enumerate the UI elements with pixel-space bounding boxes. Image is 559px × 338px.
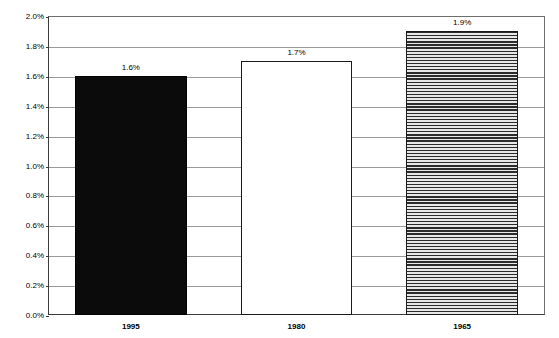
x-axis-label-1995: 1995	[122, 322, 140, 331]
bar-1965[interactable]	[406, 31, 518, 315]
population-growth-bar-chart: Population Growth 0.0%0.2%0.4%0.6%0.8%1.…	[0, 0, 559, 338]
bar-1995[interactable]	[75, 76, 187, 315]
data-label-1980: 1.7%	[287, 48, 305, 57]
y-axis-tick-mark	[46, 316, 49, 317]
y-axis-tick-label: 2.0%	[26, 12, 44, 21]
data-label-1965: 1.9%	[453, 18, 471, 27]
bar-1980[interactable]	[241, 61, 353, 315]
x-axis-label-1980: 1980	[288, 322, 306, 331]
y-axis-tick-label: 0.2%	[26, 281, 44, 290]
y-axis-tick-label: 0.0%	[26, 311, 44, 320]
x-axis-category-labels: 199519801965	[48, 322, 545, 338]
x-axis-label-1965: 1965	[453, 322, 471, 331]
y-axis-tick-label: 0.6%	[26, 221, 44, 230]
y-axis-tick-label: 1.2%	[26, 131, 44, 140]
y-axis-tick-label: 1.4%	[26, 101, 44, 110]
y-axis-tick-label: 0.8%	[26, 191, 44, 200]
y-axis-tick-label: 1.0%	[26, 161, 44, 170]
y-axis-tick-label: 1.8%	[26, 41, 44, 50]
y-axis-tick-labels: 0.0%0.2%0.4%0.6%0.8%1.0%1.2%1.4%1.6%1.8%…	[14, 16, 46, 315]
y-axis-tick-label: 1.6%	[26, 71, 44, 80]
bars-layer: 1.6%1.7%1.9%	[48, 16, 545, 315]
y-axis-tick-label: 0.4%	[26, 251, 44, 260]
data-label-1995: 1.6%	[122, 63, 140, 72]
